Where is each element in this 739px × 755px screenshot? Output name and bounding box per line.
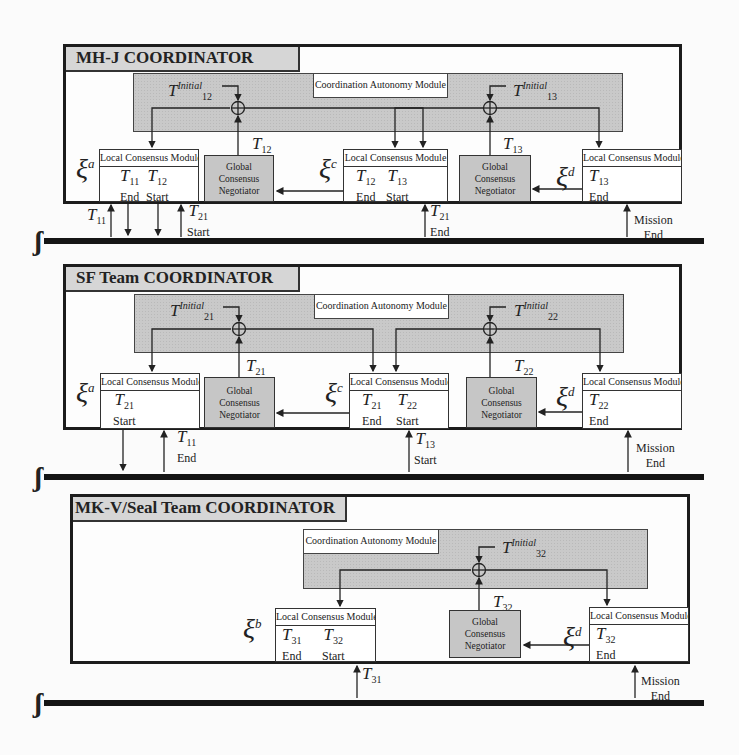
- signal-wires: [0, 0, 739, 755]
